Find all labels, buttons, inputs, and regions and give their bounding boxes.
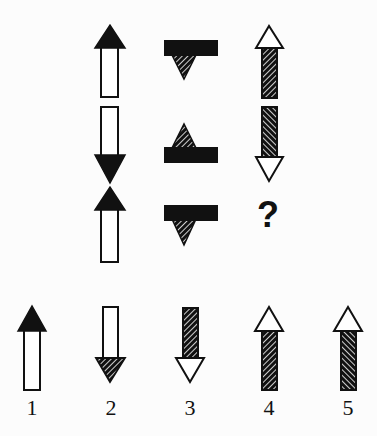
option-label-2: 2 bbox=[96, 395, 126, 421]
option-label-1: 1 bbox=[17, 395, 47, 421]
cell-r2-c3-arrow-down bbox=[256, 107, 283, 181]
cell-r3-c1-arrow-up bbox=[95, 187, 125, 262]
cell-r2-c1-arrow-down bbox=[95, 107, 125, 183]
option-4-arrow-up[interactable] bbox=[255, 307, 283, 390]
option-label-4: 4 bbox=[254, 395, 284, 421]
option-5-arrow-up[interactable] bbox=[334, 307, 362, 390]
missing-cell-question-mark: ? bbox=[253, 194, 283, 236]
cell-r3-c2-bar-triangle-down bbox=[164, 205, 218, 245]
option-1-arrow-up[interactable] bbox=[18, 306, 46, 390]
option-label-5: 5 bbox=[333, 395, 363, 421]
option-label-3: 3 bbox=[175, 395, 205, 421]
cell-r2-c2-bar-triangle-up bbox=[164, 124, 218, 163]
option-3-arrow-down[interactable] bbox=[176, 308, 204, 382]
cell-r1-c1-arrow-up bbox=[95, 25, 125, 97]
puzzle-figure bbox=[0, 0, 377, 436]
option-2-arrow-down[interactable] bbox=[96, 307, 125, 382]
cell-r1-c2-bar-triangle-down bbox=[164, 40, 218, 79]
cell-r1-c3-arrow-up bbox=[256, 26, 283, 98]
